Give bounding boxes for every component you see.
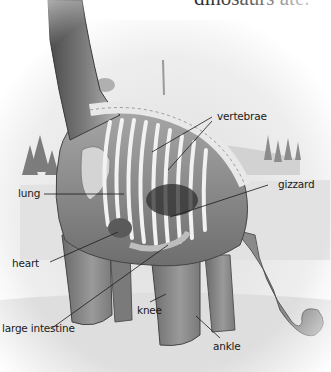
diagram-stage: dinosaurs ate. — [0, 0, 331, 372]
label-large-intestine: large intestine — [2, 322, 75, 334]
label-heart: heart — [12, 257, 39, 269]
label-ankle: ankle — [213, 340, 241, 352]
label-gizzard: gizzard — [278, 178, 314, 190]
label-lung: lung — [18, 187, 40, 199]
label-knee: knee — [137, 304, 162, 316]
label-vertebrae: vertebrae — [217, 110, 267, 122]
